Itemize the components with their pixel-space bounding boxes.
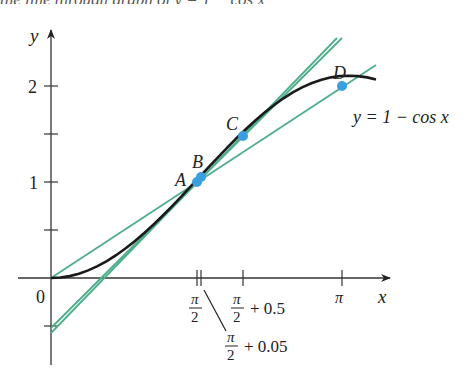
leader-line [204,290,226,331]
svg-text:π: π [233,291,241,307]
y-tick-label-1: 1 [29,173,38,193]
point-C [238,131,248,141]
x-axis-label: x [377,286,387,307]
svg-text:+ 0.5: + 0.5 [250,299,285,318]
point-B [196,172,206,182]
x-tick-label-pi-over-2: π 2 [189,291,202,325]
y-tick-label-2: 2 [28,77,37,97]
svg-text:π: π [191,291,199,307]
x-tick-label-pi-over-2-plus-0.05: π 2 + 0.05 [225,329,288,363]
svg-text:π: π [227,329,235,345]
secant-diagram: y x 0 2 1 A B C D y = 1 − cos x π 2 π 2 … [0,0,473,374]
point-label-A: A [174,170,187,190]
secant-AD [51,65,376,278]
svg-text:2: 2 [233,309,241,325]
y-axis-label: y [28,25,39,46]
x-tick-label-pi: π [335,289,344,306]
svg-text:2: 2 [227,347,235,363]
point-label-D: D [332,63,346,83]
svg-text:+ 0.05: + 0.05 [244,337,288,356]
point-label-C: C [226,114,239,134]
svg-text:2: 2 [191,309,199,325]
origin-label: 0 [36,287,45,307]
cosine-curve [51,76,376,278]
x-tick-label-pi-over-2-plus-0.5: π 2 + 0.5 [231,291,285,325]
secant-lines [51,38,376,333]
point-label-B: B [192,152,203,172]
function-label: y = 1 − cos x [351,107,449,127]
